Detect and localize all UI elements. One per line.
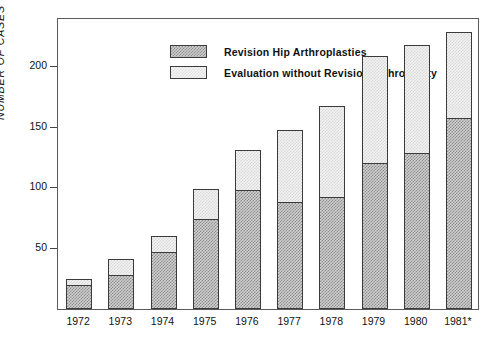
bar-segment-revision	[404, 153, 430, 309]
y-tick-mark	[50, 66, 57, 67]
y-tick-mark	[50, 187, 57, 188]
y-tick-label: 150	[29, 120, 47, 132]
legend-item-evaluation: Evaluation without Revision Arthroplasty	[170, 64, 437, 81]
bar-1977	[277, 130, 303, 309]
y-tick-mark	[50, 127, 57, 128]
bar-segment-revision	[193, 219, 219, 309]
bar-1974	[151, 236, 177, 309]
bar-segment-revision	[362, 163, 388, 309]
y-tick-label: 100	[29, 180, 47, 192]
bar-1972	[66, 279, 92, 309]
x-tick-label-1981: 1981*	[428, 315, 488, 327]
bar-segment-evaluation	[277, 130, 303, 203]
y-axis-title: NUMBER OF CASES	[0, 0, 6, 120]
bar-segment-revision	[151, 252, 177, 309]
bar-segment-evaluation	[319, 106, 345, 198]
bar-1973	[108, 259, 134, 309]
bar-1980	[404, 45, 430, 309]
bar-1976	[235, 150, 261, 309]
bar-segment-evaluation	[446, 32, 472, 119]
bar-segment-revision	[319, 197, 345, 309]
bar-segment-revision	[277, 202, 303, 309]
bar-segment-revision	[66, 285, 92, 309]
y-tick-label: 200	[29, 59, 47, 71]
y-tick-label: 50	[35, 241, 47, 253]
legend-item-revision: Revision Hip Arthroplasties	[170, 43, 437, 60]
bar-1981	[446, 32, 472, 309]
bar-segment-evaluation	[108, 259, 134, 276]
bar-segment-evaluation	[362, 56, 388, 164]
bar-segment-evaluation	[193, 189, 219, 220]
bar-segment-revision	[235, 190, 261, 309]
y-tick-mark	[50, 248, 57, 249]
bar-1979	[362, 56, 388, 309]
figure-container: NUMBER OF CASES 50100150200 Revision Hip…	[0, 0, 502, 346]
plot-area: Revision Hip ArthroplastiesEvaluation wi…	[57, 18, 479, 310]
bar-1978	[319, 106, 345, 309]
legend-label: Revision Hip Arthroplasties	[224, 46, 367, 58]
bar-1975	[193, 189, 219, 309]
legend-swatch-revision	[170, 45, 207, 58]
bar-segment-evaluation	[151, 236, 177, 253]
bar-segment-revision	[446, 118, 472, 309]
bar-segment-evaluation	[404, 45, 430, 154]
bar-segment-revision	[108, 275, 134, 309]
legend-swatch-evaluation	[170, 66, 207, 79]
chart-legend: Revision Hip ArthroplastiesEvaluation wi…	[170, 43, 437, 85]
bar-segment-evaluation	[235, 150, 261, 191]
